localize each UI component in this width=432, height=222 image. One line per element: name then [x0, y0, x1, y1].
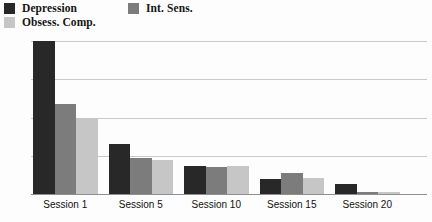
x-tick-label-session-5: Session 5: [101, 199, 181, 210]
legend-label-obsess-comp: Obsess. Comp.: [22, 16, 96, 28]
x-tick-label-session-15: Session 15: [252, 199, 332, 210]
bar-int-sens-session-20: [357, 192, 379, 194]
gridline-0: [31, 194, 427, 195]
bar-int-sens-session-5: [130, 158, 152, 194]
legend-label-int-sens: Int. Sens.: [146, 2, 193, 14]
bar-depression-session-10: [184, 166, 206, 194]
x-tick-label-session-20: Session 20: [327, 199, 407, 210]
bar-depression-session-20: [335, 184, 357, 194]
x-axis-labels: Session 1Session 5Session 10Session 15Se…: [31, 199, 427, 219]
legend-swatch-int-sens: [128, 3, 139, 14]
bar-obsess-comp-session-10: [227, 166, 249, 194]
bar-depression-session-1: [33, 41, 55, 194]
bar-obsess-comp-session-15: [303, 178, 325, 194]
x-tick-label-session-10: Session 10: [176, 199, 256, 210]
legend-item-int-sens: Int. Sens.: [128, 2, 193, 14]
legend-swatch-obsess-comp: [4, 17, 15, 28]
bar-obsess-comp-session-1: [76, 118, 98, 195]
legend-item-obsess-comp: Obsess. Comp.: [4, 16, 96, 28]
bar-int-sens-session-15: [281, 173, 303, 194]
bar-obsess-comp-session-20: [378, 192, 400, 194]
legend-label-depression: Depression: [22, 2, 77, 14]
legend-item-depression: Depression: [4, 2, 77, 14]
bar-int-sens-session-1: [55, 104, 77, 194]
bar-chart: Depression Obsess. Comp. Int. Sens. 0714…: [0, 0, 432, 222]
bar-depression-session-5: [109, 144, 131, 194]
plot-area: 07142128: [31, 41, 427, 194]
bar-obsess-comp-session-5: [152, 160, 174, 194]
x-tick-label-session-1: Session 1: [25, 199, 105, 210]
bar-int-sens-session-10: [206, 167, 228, 194]
chart-legend: Depression Obsess. Comp. Int. Sens.: [4, 2, 304, 32]
legend-swatch-depression: [4, 3, 15, 14]
bar-series-container: [31, 41, 427, 194]
bar-depression-session-15: [260, 179, 282, 194]
